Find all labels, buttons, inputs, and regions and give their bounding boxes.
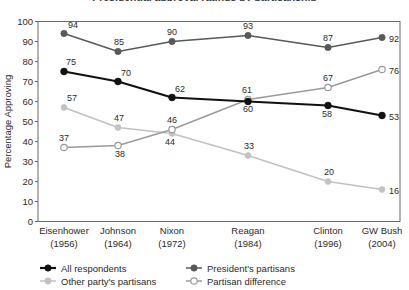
chart-title: Presidential approval ratings by partisa… (0, 0, 409, 1)
y-tick-label: 80 (22, 56, 33, 67)
data-point-marker (169, 94, 176, 101)
data-point-label: 33 (244, 141, 254, 151)
x-tick-label-name: GW Bush (362, 225, 403, 236)
y-tick-label: 20 (22, 176, 33, 187)
data-point-marker (61, 68, 68, 75)
data-point-marker (61, 105, 67, 111)
data-point-label: 44 (165, 137, 175, 147)
data-point-label: 58 (322, 109, 332, 119)
data-point-label: 87 (323, 33, 333, 43)
data-point-label: 46 (167, 115, 177, 125)
data-point-marker (379, 66, 385, 72)
data-point-label: 93 (243, 21, 253, 31)
chart-canvas: Percentage Approving 1009080706050403020… (0, 0, 409, 290)
data-point-label: 92 (389, 34, 399, 44)
data-point-label: 16 (389, 186, 399, 196)
data-point-label: 94 (68, 20, 78, 30)
data-point-marker (169, 126, 175, 132)
x-tick-label-name: Eisenhower (39, 225, 89, 236)
x-tick-label-name: Clinton (313, 225, 343, 236)
plot-frame (38, 22, 400, 222)
series-line (64, 34, 382, 52)
data-point-label: 76 (389, 66, 399, 76)
data-point-marker (245, 32, 251, 38)
legend-item[interactable]: Other party's partisans (40, 276, 157, 287)
x-tick-label-name: Reagan (231, 225, 264, 236)
y-tick-label: 60 (22, 96, 33, 107)
data-point-label: 90 (167, 27, 177, 37)
y-axis-title-group: Percentage Approving (2, 75, 13, 168)
data-point-marker (325, 179, 331, 185)
data-point-label: 57 (67, 93, 77, 103)
data-point-marker (245, 153, 251, 159)
x-tick-label-year: (1972) (158, 238, 185, 249)
legend-item[interactable]: All respondents (40, 263, 127, 274)
series-other-party-s-partisans: 574744332016 (61, 93, 399, 196)
data-point-marker (115, 78, 122, 85)
y-axis-ticks: 1009080706050403020100 (17, 16, 38, 227)
legend-marker-swatch (191, 278, 197, 284)
data-point-label: 62 (175, 84, 185, 94)
data-point-label: 60 (243, 104, 253, 114)
data-point-label: 20 (324, 167, 334, 177)
data-point-label: 47 (114, 113, 124, 123)
data-point-marker (379, 112, 386, 119)
y-tick-label: 70 (22, 76, 33, 87)
legend-item[interactable]: President's partisans (186, 263, 295, 274)
data-point-label: 37 (59, 133, 69, 143)
x-tick-label-year: (1996) (314, 238, 341, 249)
x-tick-label-year: (1984) (234, 238, 261, 249)
series-president-s-partisans: 948590938792 (61, 20, 399, 55)
x-tick-label-year: (1964) (104, 238, 131, 249)
data-series-group: 5747443320163738466167769485909387927570… (59, 20, 399, 196)
y-tick-label: 40 (22, 136, 33, 147)
y-tick-label: 50 (22, 116, 33, 127)
chart-legend: All respondentsPresident's partisansOthe… (40, 263, 295, 287)
data-point-marker (115, 48, 121, 54)
x-tick-label-name: Nixon (160, 225, 184, 236)
series-line (64, 108, 382, 190)
data-point-marker (61, 144, 67, 150)
legend-label: Other party's partisans (61, 276, 157, 287)
data-point-label: 67 (323, 73, 333, 83)
data-point-marker (379, 187, 385, 193)
data-point-label: 70 (121, 68, 131, 78)
x-axis-categories: Eisenhower(1956)Johnson(1964)Nixon(1972)… (39, 225, 402, 249)
data-point-label: 38 (115, 149, 125, 159)
data-point-marker (379, 34, 385, 40)
data-point-marker (325, 84, 331, 90)
legend-marker-swatch (45, 278, 51, 284)
data-point-label: 85 (114, 37, 124, 47)
series-all-respondents: 757062605853 (61, 57, 399, 122)
y-tick-label: 10 (22, 196, 33, 207)
legend-marker-swatch (45, 265, 51, 271)
legend-label: President's partisans (207, 263, 295, 274)
legend-label: All respondents (61, 263, 127, 274)
y-axis-title: Percentage Approving (2, 75, 13, 168)
y-tick-label: 30 (22, 156, 33, 167)
data-point-marker (61, 30, 67, 36)
y-tick-label: 0 (28, 216, 33, 227)
data-point-label: 75 (66, 57, 76, 67)
data-point-marker (115, 125, 121, 131)
data-point-marker (325, 44, 331, 50)
legend-item[interactable]: Partisan difference (186, 276, 286, 287)
y-tick-label: 100 (17, 16, 33, 27)
data-point-label: 61 (242, 85, 252, 95)
x-tick-label-name: Johnson (100, 225, 136, 236)
data-point-label: 53 (389, 112, 399, 122)
x-tick-label-year: (2004) (368, 238, 395, 249)
approval-line-chart: Presidential approval ratings by partisa… (0, 0, 409, 290)
legend-label: Partisan difference (207, 276, 286, 287)
data-point-marker (169, 38, 175, 44)
x-tick-label-year: (1956) (50, 238, 77, 249)
y-tick-label: 90 (22, 36, 33, 47)
legend-marker-swatch (191, 265, 197, 271)
